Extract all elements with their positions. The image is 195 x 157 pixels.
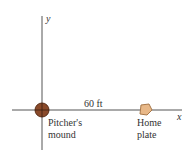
- pitchers-mound-label-line2: mound: [48, 129, 76, 140]
- home-plate-label-line1: Home: [137, 117, 162, 128]
- pitchers-mound-label-line1: Pitcher's: [48, 117, 82, 128]
- x-axis-label: x: [176, 111, 182, 122]
- home-plate-icon: [140, 104, 152, 115]
- baseball-diagram: y x 60 ft Pitcher's mound Home plate: [0, 0, 195, 157]
- y-axis-label: y: [45, 13, 51, 24]
- distance-label: 60 ft: [84, 98, 103, 109]
- home-plate-label-line2: plate: [137, 129, 157, 140]
